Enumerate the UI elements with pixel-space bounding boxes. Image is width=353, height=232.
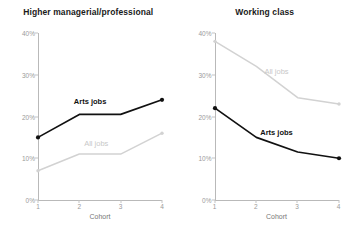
x-axis-tick-label: 4 bbox=[160, 203, 164, 210]
x-axis-tick-mark bbox=[255, 200, 256, 203]
x-axis-line bbox=[215, 200, 339, 201]
y-axis-tick-label: 10% bbox=[22, 155, 35, 162]
x-axis-label: Cohort bbox=[215, 213, 339, 220]
x-axis-tick-label: 1 bbox=[36, 203, 40, 210]
x-axis-tick-label: 1 bbox=[213, 203, 217, 210]
y-axis-tick-mark bbox=[35, 158, 38, 159]
x-axis-tick-label: 3 bbox=[119, 203, 123, 210]
chart-panel-higher-managerial: Higher managerial/professional Arts jobs… bbox=[0, 0, 177, 232]
series-label-arts-jobs: Arts jobs bbox=[74, 97, 107, 106]
x-axis-tick-label: 4 bbox=[337, 203, 341, 210]
y-axis-tick-mark bbox=[212, 158, 215, 159]
chart-panel-working-class: Working class All jobsArts jobs0%10%20%3… bbox=[177, 0, 353, 232]
y-axis-tick-mark bbox=[212, 116, 215, 117]
data-point-marker bbox=[36, 135, 40, 139]
y-axis-tick-mark bbox=[212, 74, 215, 75]
y-axis-tick-label: 40% bbox=[198, 30, 211, 37]
x-axis-line bbox=[38, 200, 162, 201]
y-axis-tick-label: 20% bbox=[198, 113, 211, 120]
x-axis-tick-mark bbox=[38, 200, 39, 203]
data-point-marker bbox=[213, 40, 216, 43]
x-axis-tick-mark bbox=[79, 200, 80, 203]
y-axis-tick-label: 20% bbox=[22, 113, 35, 120]
x-axis-tick-label: 2 bbox=[78, 203, 82, 210]
series-lines-0 bbox=[38, 33, 162, 200]
x-axis-tick-mark bbox=[297, 200, 298, 203]
chart-figure: Higher managerial/professional Arts jobs… bbox=[0, 0, 353, 232]
x-axis-tick-label: 2 bbox=[254, 203, 258, 210]
x-axis-tick-label: 3 bbox=[295, 203, 299, 210]
x-axis-tick-mark bbox=[120, 200, 121, 203]
x-axis-label: Cohort bbox=[38, 213, 162, 220]
data-point-marker bbox=[212, 106, 216, 110]
series-label-all-jobs: All jobs bbox=[264, 67, 288, 76]
x-axis-tick-mark bbox=[162, 200, 163, 203]
data-point-marker bbox=[36, 169, 39, 172]
data-point-marker bbox=[160, 98, 164, 102]
y-axis-tick-label: 10% bbox=[198, 155, 211, 162]
x-axis-tick-mark bbox=[338, 200, 339, 203]
series-lines-1 bbox=[215, 33, 339, 200]
y-axis-tick-mark bbox=[212, 33, 215, 34]
y-axis-tick-label: 40% bbox=[22, 30, 35, 37]
panel-title: Working class bbox=[177, 7, 353, 18]
y-axis-tick-label: 0% bbox=[202, 197, 211, 204]
y-axis-tick-mark bbox=[35, 116, 38, 117]
data-point-marker bbox=[336, 156, 340, 160]
y-axis-tick-label: 30% bbox=[22, 71, 35, 78]
x-axis-tick-mark bbox=[214, 200, 215, 203]
series-label-all-jobs: All jobs bbox=[84, 139, 108, 148]
plot-area-1: All jobsArts jobs0%10%20%30%40%1234 bbox=[215, 33, 339, 200]
plot-area-0: Arts jobsAll jobs0%10%20%30%40%1234 bbox=[38, 33, 162, 200]
y-axis-tick-label: 0% bbox=[26, 197, 35, 204]
data-point-marker bbox=[160, 132, 163, 135]
data-point-marker bbox=[337, 102, 340, 105]
panel-title: Higher managerial/professional bbox=[0, 7, 177, 18]
y-axis-tick-mark bbox=[35, 33, 38, 34]
y-axis-tick-label: 30% bbox=[198, 71, 211, 78]
y-axis-tick-mark bbox=[35, 74, 38, 75]
series-label-arts-jobs: Arts jobs bbox=[260, 128, 293, 137]
